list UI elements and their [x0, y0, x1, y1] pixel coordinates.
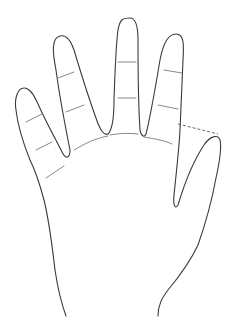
hand-outline: [15, 18, 220, 316]
thumb-web-dashed-line: [178, 124, 218, 134]
hand-outline-drawing: [0, 0, 234, 318]
finger-creases: [26, 62, 182, 178]
hand-diagram: [0, 0, 234, 318]
